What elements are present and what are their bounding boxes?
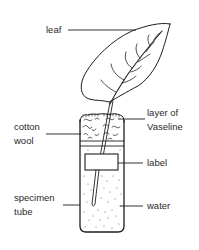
label-label: label xyxy=(147,157,167,168)
label-specimen-line1: specimen xyxy=(14,192,55,203)
leaf-vein xyxy=(125,52,132,68)
label-specimen-line2: tube xyxy=(14,206,33,217)
leaf-vein xyxy=(148,35,150,46)
cotton-wool-texture xyxy=(83,118,120,139)
label-water: water xyxy=(146,200,170,211)
tube-label xyxy=(85,154,118,170)
specimen-tube xyxy=(80,114,124,232)
cotton-wool xyxy=(80,114,124,122)
leaf-vein xyxy=(136,44,140,58)
label-cotton-line2: wool xyxy=(13,135,34,146)
leaf-vein xyxy=(101,80,116,92)
label-leaf: leaf xyxy=(46,24,62,35)
leaf-vein xyxy=(111,64,124,80)
label-cotton-line1: cotton xyxy=(14,121,40,132)
leaf-transpiration-diagram: leaf layer of Vaseline cotton wool label… xyxy=(0,0,199,250)
leaf-stalk-submerged xyxy=(92,170,99,206)
label-vaseline-line1: layer of xyxy=(147,107,179,118)
label-vaseline-line2: Vaseline xyxy=(147,121,183,132)
leaf-vein xyxy=(146,42,154,52)
